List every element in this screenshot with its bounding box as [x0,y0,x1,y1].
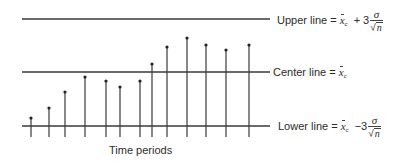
sample-point [138,79,141,82]
sigma-over-root-n: σ√n [368,115,381,139]
sample-point [63,90,66,93]
sample-point [224,48,227,51]
upper-line-text: Upper line = [277,14,340,26]
minus-three: −3 [355,120,368,132]
x-axis-label: Time periods [109,144,172,156]
x-bar-symbol: x [339,66,344,78]
sigma-over-root-n: σ√n [370,9,383,33]
sample-point [83,75,86,78]
x-bar-symbol: x [340,14,345,26]
upper-line-label: Upper line = xc + 3σ√n [277,9,383,33]
sample-point [104,79,107,82]
lower-line-text: Lower line = [278,120,341,132]
sample-point [247,43,250,46]
sample-point [47,106,50,109]
subscript-c: c [346,127,349,133]
center-line-label: Center line = xc [273,66,347,79]
subscript-c: c [344,73,347,79]
x-bar-symbol: x [341,120,346,132]
lower-line-label: Lower line = xc −3σ√n [278,115,381,139]
plus-three: + 3 [354,14,370,26]
sample-point [29,116,32,119]
sample-point [204,43,207,46]
sample-point [150,62,153,65]
center-line-text: Center line = [273,66,339,78]
sample-point [185,36,188,39]
sample-point [165,45,168,48]
subscript-c: c [345,21,348,27]
sample-point [118,85,121,88]
